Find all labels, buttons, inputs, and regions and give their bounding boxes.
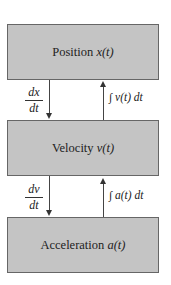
position-box: Position x(t) (7, 24, 159, 80)
arrow-up-icon (100, 81, 106, 87)
position-label: Position (52, 45, 93, 60)
derivative-line-1 (49, 80, 50, 113)
integral-line-2 (103, 184, 104, 217)
integral-line-1 (103, 87, 104, 120)
derivative-dv-dt: dv dt (25, 183, 43, 212)
arrow-down-icon (46, 210, 52, 216)
integral-v-dt: ∫ v(t) dt (109, 91, 143, 103)
position-var: x(t) (96, 45, 113, 60)
acceleration-box: Acceleration a(t) (7, 217, 159, 273)
velocity-var: v(t) (97, 141, 114, 156)
arrow-up-icon (100, 178, 106, 184)
acceleration-label: Acceleration (40, 238, 104, 253)
velocity-box: Velocity v(t) (7, 120, 159, 176)
derivative-line-2 (49, 176, 50, 210)
acceleration-var: a(t) (107, 238, 125, 253)
integral-a-dt: ∫ a(t) dt (109, 189, 143, 201)
derivative-dx-dt: dx dt (25, 86, 43, 115)
velocity-label: Velocity (52, 141, 94, 156)
arrow-down-icon (46, 113, 52, 119)
